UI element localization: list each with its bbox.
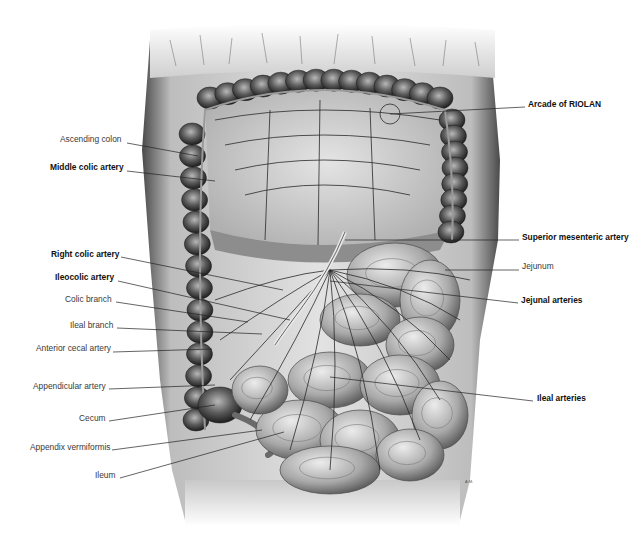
label-ileocolic-artery: Ileocolic artery (55, 272, 114, 282)
label-jejunal-arteries: Jejunal arteries (521, 295, 582, 305)
label-arcade-of-riolan: Arcade of RIOLAN (528, 99, 601, 109)
label-ileal-arteries: Ileal arteries (537, 393, 586, 403)
label-cecum: Cecum (79, 413, 106, 423)
label-ascending-colon: Ascending colon (60, 134, 121, 144)
label-superior-mesenteric-artery: Superior mesenteric artery (522, 232, 629, 242)
label-appendix-vermiformis: Appendix vermiformis (30, 442, 111, 452)
artist-signature: A.M. (465, 479, 473, 484)
label-anterior-cecal-artery: Anterior cecal artery (36, 343, 111, 353)
greater-omentum (150, 24, 495, 78)
label-appendicular-artery: Appendicular artery (33, 381, 106, 391)
anatomical-diagram: A.M. Ascending colonMiddle colic arteryR… (0, 0, 640, 546)
label-right-colic-artery: Right colic artery (51, 249, 119, 259)
label-middle-colic-artery: Middle colic artery (50, 162, 124, 172)
label-ileum: Ileum (95, 470, 115, 480)
label-colic-branch: Colic branch (65, 294, 112, 304)
label-jejunum: Jejunum (522, 261, 554, 271)
label-ileal-branch: Ileal branch (70, 320, 113, 330)
